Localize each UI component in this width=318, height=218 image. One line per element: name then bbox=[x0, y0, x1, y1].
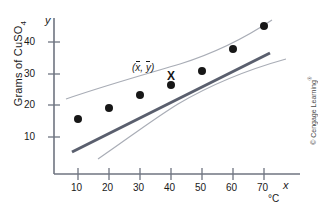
lower-confidence-band bbox=[98, 59, 286, 159]
y-axis-title-subscript: 4 bbox=[19, 21, 28, 26]
registered-trademark-icon: ® bbox=[307, 76, 313, 80]
mean-point-label: (x, y) bbox=[132, 62, 154, 73]
x-tick-label-40: 40 bbox=[164, 182, 175, 193]
chart-canvas: X bbox=[0, 0, 318, 218]
x-tick-label-50: 50 bbox=[195, 182, 206, 193]
copyright-credit: © Cengage Learning® bbox=[307, 56, 316, 166]
y-tick-label-30: 30 bbox=[24, 68, 35, 79]
data-point bbox=[260, 22, 268, 30]
mean-point-marker-x: X bbox=[167, 69, 175, 83]
x-tick-label-70: 70 bbox=[257, 182, 268, 193]
copyright-text: © Cengage Learning bbox=[310, 80, 317, 145]
y-tick-label-20: 20 bbox=[24, 99, 35, 110]
data-point bbox=[74, 115, 82, 123]
regression-line bbox=[72, 53, 270, 152]
axis-lines bbox=[54, 18, 300, 174]
x-tick-label-60: 60 bbox=[226, 182, 237, 193]
x-tick-label-10: 10 bbox=[71, 182, 82, 193]
data-point bbox=[105, 104, 113, 112]
y-tick-label-40: 40 bbox=[24, 36, 35, 47]
mean-label-x-bar: x bbox=[135, 62, 140, 73]
y-axis-title-text: Grams of CuSO bbox=[12, 26, 24, 107]
y-axis-letter: y bbox=[45, 14, 51, 26]
x-tick-label-20: 20 bbox=[102, 182, 113, 193]
x-axis-unit-label: °C bbox=[268, 193, 279, 204]
y-tick-label-10: 10 bbox=[24, 131, 35, 142]
x-tick-label-30: 30 bbox=[133, 182, 144, 193]
mean-label-y-bar: y bbox=[146, 62, 151, 73]
x-axis-letter: x bbox=[283, 179, 289, 191]
data-point bbox=[198, 67, 206, 75]
data-point bbox=[136, 91, 144, 99]
data-point bbox=[229, 45, 237, 53]
figure-container: X Grams of CuSO4 y x °C 10 20 30 40 10 2… bbox=[0, 0, 318, 218]
mean-label-close-paren: ) bbox=[151, 62, 154, 73]
